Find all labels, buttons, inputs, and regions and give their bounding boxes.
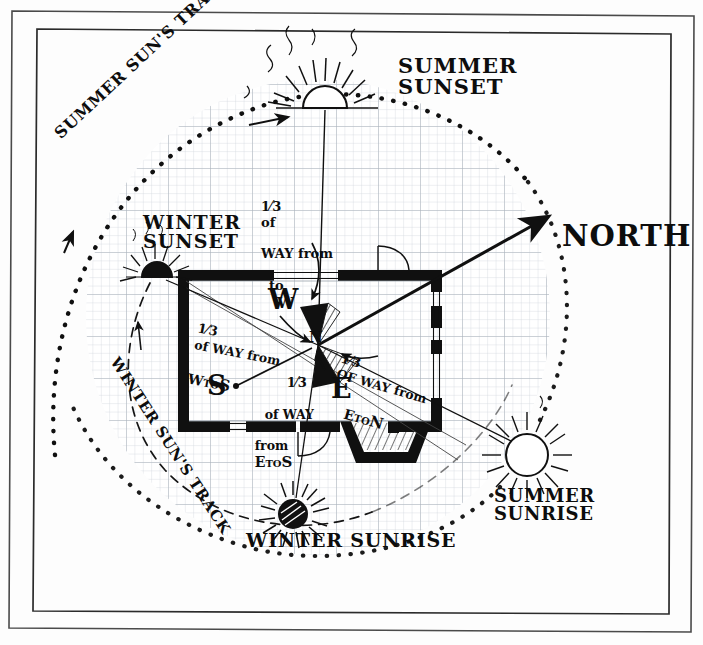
- e-to-s-fraction: 1⁄3: [287, 374, 307, 389]
- w-to-s-s: S: [218, 375, 232, 395]
- w-to-n-wayfrom: WAY from: [261, 246, 333, 261]
- e-to-s-from: from: [255, 438, 289, 453]
- e-to-s-ofway: of WAY: [265, 407, 314, 422]
- w-to-n-of: of: [261, 215, 275, 230]
- winter-sunset-line2: SUNSET: [143, 230, 239, 252]
- label-summer-sunrise: SUMMERSUNRISE: [494, 487, 595, 524]
- w-to-s-fraction: 1⁄3: [197, 320, 220, 339]
- label-winter-sunrise: WINTER SUNRISE: [246, 531, 456, 550]
- e-to-n-n: N: [367, 412, 385, 433]
- e-to-s-e: E: [255, 454, 266, 470]
- w-to-n-to: to: [269, 278, 284, 293]
- label-winter-sunset: WINTERSUNSET: [143, 213, 241, 252]
- label-north: NORTH: [562, 222, 691, 252]
- w-to-n-n: N: [309, 328, 323, 346]
- e-to-s-s: S: [282, 453, 293, 471]
- summer-sunset-line2: SUNSET: [398, 74, 503, 99]
- annotation-e-to-s: 1⁄3 of WAY from ETOS: [246, 358, 314, 472]
- diagram-page: NORTH SUMMERSUNSET WINTERSUNSET SUMMERSU…: [0, 0, 703, 645]
- e-to-n-fraction: 1⁄3: [340, 350, 364, 370]
- e-to-n-wayfrom: OF WAY from: [335, 366, 429, 406]
- e-to-s-to: TO: [265, 458, 281, 469]
- w-to-n-fraction: 1⁄3: [261, 198, 281, 213]
- label-summer-sunset: SUMMERSUNSET: [398, 55, 517, 98]
- summer-sunrise-line2: SUNRISE: [494, 503, 593, 524]
- w-to-n-w: W: [277, 294, 294, 312]
